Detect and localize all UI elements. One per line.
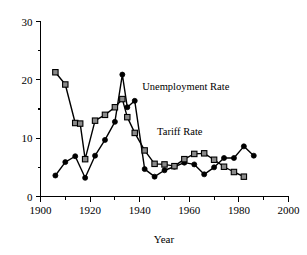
y-tick-label: 10 (22, 132, 34, 144)
chart-tick-labels: 0102030190019201940196019802000 (22, 16, 301, 216)
data-point-marker-circle (63, 160, 68, 165)
data-point-marker-circle (202, 172, 207, 177)
data-point-marker-square (231, 169, 236, 174)
x-tick-label: 1960 (178, 204, 201, 216)
chart-container: 0102030190019201940196019802000 Unemploy… (0, 0, 307, 255)
data-point-marker-square (201, 151, 206, 156)
data-point-marker-circle (162, 168, 167, 173)
data-point-marker-square (63, 82, 68, 87)
data-point-marker-square (152, 161, 157, 166)
data-point-marker-circle (53, 173, 58, 178)
data-point-marker-square (162, 162, 167, 167)
data-point-marker-square (53, 70, 58, 75)
data-point-marker-circle (251, 153, 256, 158)
x-tick-label: 1940 (129, 204, 152, 216)
data-point-marker-square (221, 164, 226, 169)
data-point-marker-circle (241, 144, 246, 149)
chart-series-annotations: Unemployment RateTariff Rate (142, 81, 230, 136)
data-point-marker-circle (152, 174, 157, 179)
series-label-2: Tariff Rate (157, 126, 203, 137)
data-point-marker-square (112, 105, 117, 110)
y-tick-label: 0 (27, 191, 33, 203)
data-point-marker-square (172, 163, 177, 168)
data-point-marker-square (211, 157, 216, 162)
data-point-marker-square (142, 148, 147, 153)
line-chart: 0102030190019201940196019802000 Unemploy… (0, 0, 307, 255)
x-tick-label: 1900 (30, 204, 53, 216)
data-point-marker-circle (93, 153, 98, 158)
data-point-marker-circle (83, 175, 88, 180)
data-point-marker-circle (222, 156, 227, 161)
data-point-marker-square (192, 151, 197, 156)
y-tick-label: 30 (22, 16, 34, 28)
data-point-marker-square (77, 121, 82, 126)
x-tick-label: 2000 (278, 204, 301, 216)
data-point-marker-circle (192, 162, 197, 167)
data-point-marker-square (92, 118, 97, 123)
data-point-marker-square (125, 114, 130, 119)
data-point-marker-circle (120, 72, 125, 77)
y-tick-label: 20 (22, 74, 34, 86)
data-point-marker-square (241, 174, 246, 179)
series-label-1: Unemployment Rate (142, 81, 230, 92)
x-tick-label: 1980 (228, 204, 251, 216)
data-point-marker-circle (73, 154, 78, 159)
x-axis-title: Year (154, 233, 175, 245)
data-point-marker-circle (132, 98, 137, 103)
data-point-marker-circle (142, 167, 147, 172)
chart-ticks (36, 22, 289, 202)
data-point-marker-square (82, 156, 87, 161)
data-point-marker-circle (231, 156, 236, 161)
data-point-marker-square (102, 112, 107, 117)
data-point-marker-circle (212, 165, 217, 170)
data-point-marker-circle (102, 137, 107, 142)
data-point-marker-square (132, 130, 137, 135)
x-tick-label: 1920 (79, 204, 102, 216)
data-point-marker-circle (112, 119, 117, 124)
data-point-marker-square (120, 96, 125, 101)
data-point-marker-square (182, 156, 187, 161)
